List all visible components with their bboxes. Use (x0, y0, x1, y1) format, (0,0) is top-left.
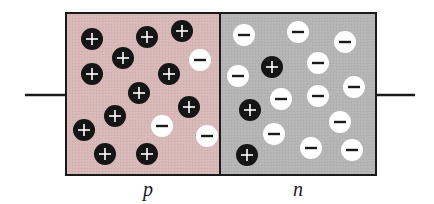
electron-minus-icon (263, 123, 285, 145)
hole-plus-icon (136, 143, 158, 165)
electron-minus-icon (300, 137, 322, 159)
electron-minus-icon (196, 125, 218, 147)
electron-minus-icon (189, 49, 211, 71)
hole-plus-icon (112, 47, 134, 69)
hole-plus-icon (236, 144, 258, 166)
hole-plus-icon (261, 56, 283, 78)
p-region-label: p (141, 178, 153, 201)
hole-plus-icon (128, 82, 150, 104)
electron-minus-icon (227, 65, 249, 87)
hole-plus-icon (81, 63, 103, 85)
electron-minus-icon (341, 139, 363, 161)
hole-plus-icon (171, 20, 193, 42)
electron-minus-icon (329, 111, 351, 133)
hole-plus-icon (178, 96, 200, 118)
electron-minus-icon (334, 31, 356, 53)
hole-plus-icon (158, 63, 180, 85)
electron-minus-icon (307, 85, 329, 107)
electron-minus-icon (287, 21, 309, 43)
hole-plus-icon (136, 26, 158, 48)
hole-plus-icon (73, 119, 95, 141)
pn-junction-diagram: p n (0, 0, 434, 204)
hole-plus-icon (239, 99, 261, 121)
hole-plus-icon (94, 143, 116, 165)
electron-minus-icon (307, 52, 329, 74)
electron-minus-icon (151, 115, 173, 137)
hole-plus-icon (81, 28, 103, 50)
hole-plus-icon (104, 105, 126, 127)
electron-minus-icon (343, 76, 365, 98)
electron-minus-icon (233, 24, 255, 46)
electron-minus-icon (270, 88, 292, 110)
n-region-label: n (293, 178, 303, 200)
